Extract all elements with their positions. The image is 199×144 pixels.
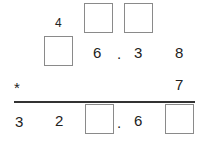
carry-blank-box-1[interactable] [84,3,113,33]
multiplicand-digit-6: 6 [93,45,101,60]
multiply-operator: * [14,80,20,95]
result-blank-box-1[interactable] [85,104,114,134]
multiplicand-digit-8: 8 [175,45,183,60]
carry-blank-box-2[interactable] [124,3,153,33]
sum-line [14,101,195,103]
result-blank-box-2[interactable] [165,104,194,134]
result-digit-6: 6 [134,113,142,128]
result-digit-2: 2 [55,113,63,128]
multiplicand-digit-3: 3 [134,45,142,60]
result-digit-3: 3 [15,114,23,129]
multiplicand-decimal-point: . [117,46,121,61]
carry-digit-4: 4 [55,17,62,29]
result-decimal-point: . [117,115,121,130]
multiplier-digit-7: 7 [175,77,183,92]
multiplicand-blank-box[interactable] [44,36,73,66]
